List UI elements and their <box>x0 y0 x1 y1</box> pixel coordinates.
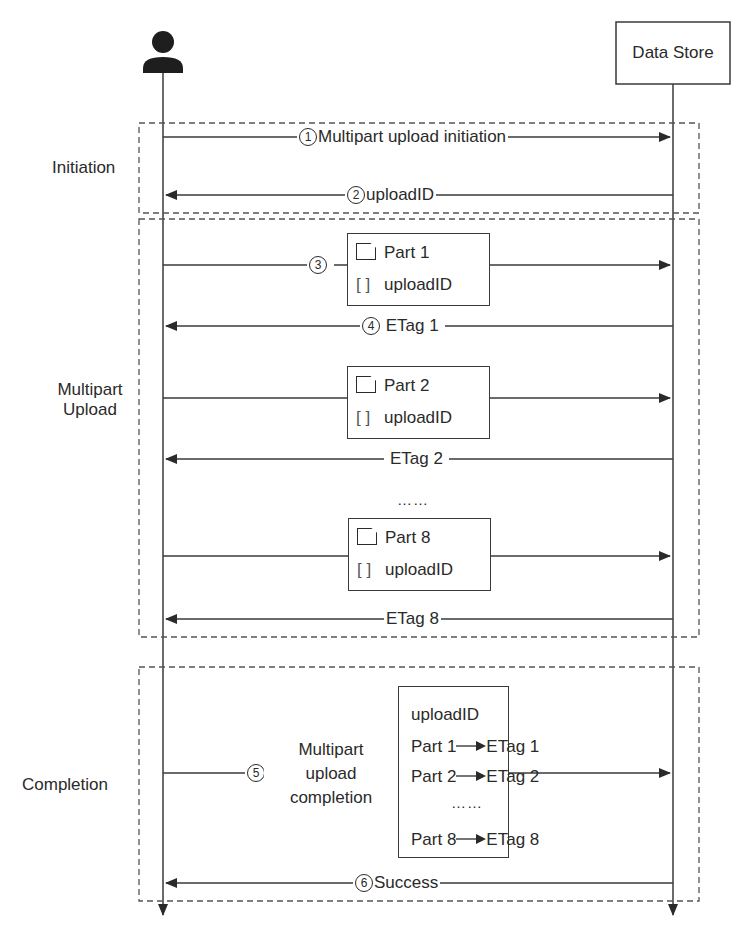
bracket-icon: [ ] <box>357 560 379 580</box>
completion-payload-box: uploadID Part 1ETag 1 Part 2ETag 2 …… Pa… <box>398 686 509 858</box>
message-1-text: Multipart upload initiation <box>318 127 506 146</box>
file-icon <box>356 243 376 260</box>
message-3-label: 3 <box>307 255 334 275</box>
message-4-label: 4 ETag 1 <box>360 316 445 336</box>
upload-id: uploadID <box>384 275 452 294</box>
row-etag: ETag 1 <box>486 737 539 756</box>
completion-row-2: Part 2ETag 2 <box>411 767 539 787</box>
ellipsis: …… <box>397 490 429 510</box>
part-name: Part 1 <box>384 243 429 262</box>
part-box-8: Part 8 [ ]uploadID <box>348 518 491 591</box>
completion-ellipsis: …… <box>451 793 483 813</box>
step-number-1: 1 <box>299 128 317 146</box>
file-icon <box>356 376 376 393</box>
upload-id: uploadID <box>384 408 452 427</box>
file-icon <box>357 528 377 545</box>
step-number-5: 5 <box>247 764 265 782</box>
upload-id: uploadID <box>385 560 453 579</box>
data-store-label: Data Store <box>616 43 730 63</box>
row-part: Part 8 <box>411 830 456 849</box>
arrow-right-icon <box>456 741 486 751</box>
phase-label-initiation: Initiation <box>52 158 115 178</box>
row-etag: ETag 2 <box>486 767 539 786</box>
phase-label-upload: Multipart Upload <box>48 380 132 420</box>
row-part: Part 1 <box>411 737 456 756</box>
arrow-right-icon <box>456 771 486 781</box>
phase-label-upload-line2: Upload <box>48 400 132 420</box>
message-2-text: uploadID <box>366 185 434 204</box>
completion-row-8: Part 8ETag 8 <box>411 830 539 850</box>
row-part: Part 2 <box>411 767 456 786</box>
arrow-right-icon <box>456 834 486 844</box>
step-number-6: 6 <box>355 874 373 892</box>
bracket-icon: [ ] <box>356 408 378 428</box>
row-etag: ETag 8 <box>486 830 539 849</box>
message-5-line3: completion <box>266 786 396 810</box>
completion-row-1: Part 1ETag 1 <box>411 737 539 757</box>
part-name: Part 8 <box>385 528 430 547</box>
step-number-2: 2 <box>347 186 365 204</box>
message-2-label: 2uploadID <box>345 185 436 205</box>
phase-label-completion: Completion <box>22 775 108 795</box>
part-box-1: Part 1 [ ]uploadID <box>347 233 490 306</box>
message-1-label: 1Multipart upload initiation <box>297 127 508 147</box>
part-box-2: Part 2 [ ]uploadID <box>347 366 490 439</box>
message-5-line1: Multipart <box>266 738 396 762</box>
phase-label-upload-line1: Multipart <box>48 380 132 400</box>
message-6-label: 6Success <box>353 873 440 893</box>
bracket-icon: [ ] <box>356 275 378 295</box>
part-name: Part 2 <box>384 376 429 395</box>
message-5-line2: upload <box>266 762 396 786</box>
person-icon <box>143 31 183 73</box>
etag-2-label: ETag 2 <box>384 449 449 469</box>
message-6-text: Success <box>374 873 438 892</box>
etag-8-label: ETag 8 <box>384 609 441 629</box>
message-5-label: Multipart upload completion <box>264 738 398 810</box>
step-number-3: 3 <box>309 256 327 274</box>
message-4-text: ETag 1 <box>386 316 439 335</box>
completion-upload-id: uploadID <box>411 705 479 725</box>
step-number-4: 4 <box>362 317 380 335</box>
